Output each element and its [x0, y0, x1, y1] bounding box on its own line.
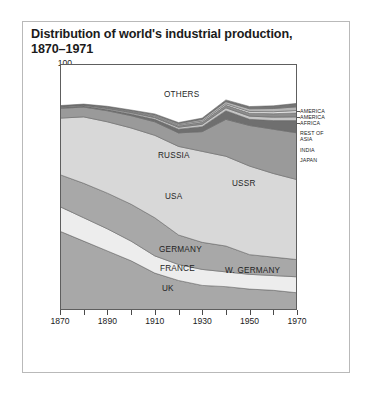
x-tick-mark-1870 — [60, 310, 61, 315]
x-tick-label-1890: 1890 — [87, 316, 127, 326]
chart-page: Distribution of world's industrial produ… — [0, 0, 373, 396]
plot-area: OTHERS RUSSIA USA USSR GERMANY FRANCE W.… — [60, 64, 297, 310]
series-label-ussr: USSR — [232, 179, 256, 188]
x-tick-mark-1910 — [155, 310, 156, 315]
series-label-russia: RUSSIA — [158, 151, 190, 160]
x-tick-mark-1890 — [107, 310, 108, 315]
x-tick-label-1910: 1910 — [135, 316, 175, 326]
legend-item-japan: JAPAN — [300, 158, 317, 164]
legend-item-india: INDIA — [300, 148, 315, 154]
series-label-others: OTHERS — [164, 90, 199, 99]
page-title: Distribution of world's industrial produ… — [31, 27, 331, 57]
x-tick-label-1970: 1970 — [277, 316, 317, 326]
series-label-w-germany: W. GERMANY — [225, 266, 280, 275]
title-line-1: Distribution of world's industrial produ… — [31, 27, 292, 41]
x-tick-mark-1930 — [202, 310, 203, 315]
series-label-france: FRANCE — [160, 264, 195, 273]
legend-item-africa: AFRICA — [300, 121, 320, 127]
x-tick-mark-1880 — [84, 310, 85, 315]
x-tick-label-1930: 1930 — [182, 316, 222, 326]
legend-tick-1 — [296, 111, 300, 112]
x-tick-mark-1960 — [273, 310, 274, 315]
series-label-germany: GERMANY — [159, 245, 202, 254]
legend-item-asia-line2: ASIA — [300, 137, 312, 143]
series-label-uk: UK — [162, 284, 174, 293]
series-label-usa: USA — [165, 192, 182, 201]
x-tick-label-1870: 1870 — [40, 316, 80, 326]
x-tick-mark-1920 — [179, 310, 180, 315]
x-tick-mark-1970 — [297, 310, 298, 315]
x-tick-mark-1900 — [131, 310, 132, 315]
legend-tick-2 — [296, 117, 300, 118]
x-tick-mark-1940 — [226, 310, 227, 315]
x-tick-mark-1950 — [250, 310, 251, 315]
x-tick-label-1950: 1950 — [230, 316, 270, 326]
title-line-2: 1870–1971 — [31, 42, 93, 56]
legend-tick-3 — [296, 123, 300, 124]
